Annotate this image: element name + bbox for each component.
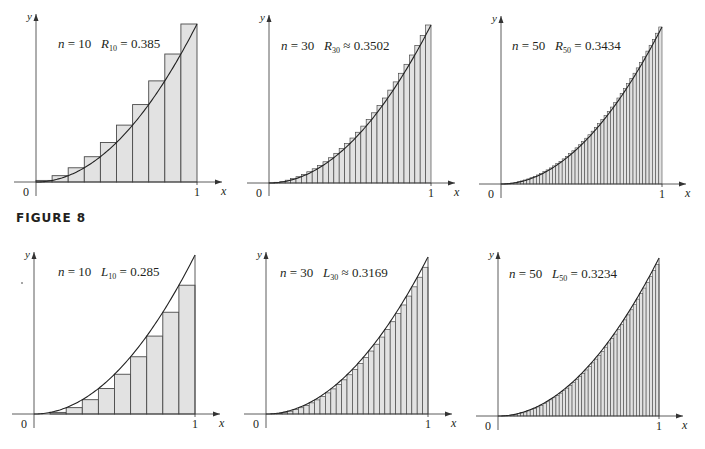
y-axis-arrow-icon	[32, 252, 37, 259]
rectangle	[533, 408, 536, 416]
x-tick-label-1: 1	[192, 417, 198, 431]
x-axis-label: x	[681, 418, 688, 432]
rectangle	[361, 126, 366, 183]
x-tick-label-1: 1	[656, 419, 662, 433]
rectangle	[569, 385, 572, 416]
rectangle	[611, 339, 614, 416]
riemann-sum-plots: yx01n = 10 R10 = 0.385yx01n = 30 R30 ≈ 0…	[0, 0, 705, 449]
rectangles	[501, 264, 659, 416]
rectangle	[601, 120, 604, 184]
rectangle	[546, 402, 549, 416]
figure-stage: yx01n = 10 R10 = 0.385yx01n = 30 R30 ≈ 0…	[0, 0, 705, 449]
rectangle	[656, 264, 659, 416]
rectangle	[98, 389, 114, 414]
rectangle	[537, 407, 540, 416]
rectangle	[578, 145, 581, 184]
rectangle	[630, 78, 633, 184]
rectangle	[549, 168, 552, 184]
rectangle	[84, 157, 100, 182]
rectangle	[420, 35, 425, 183]
rectangle	[591, 363, 594, 416]
y-axis-arrow-icon	[496, 252, 501, 259]
rectangle	[553, 398, 556, 416]
sum-annotation: n = 50 R50 = 0.3434	[512, 38, 621, 55]
rectangle	[352, 369, 357, 414]
x-tick-label-0: 0	[488, 187, 494, 201]
y-axis-label: y	[488, 248, 494, 260]
y-axis-arrow-icon	[264, 252, 269, 259]
rectangle	[350, 138, 355, 183]
rectangle	[588, 135, 591, 184]
rectangle	[339, 149, 344, 183]
rectangle	[336, 385, 341, 414]
rectangle	[320, 397, 325, 414]
rectangle	[331, 389, 336, 414]
y-axis-label: y	[24, 248, 30, 260]
rectangle	[614, 334, 617, 416]
panel-right-n30: yx01n = 30 R30 ≈ 0.3502	[247, 11, 460, 200]
rectangle	[133, 105, 149, 182]
rectangle	[527, 411, 530, 416]
rectangles	[50, 285, 195, 414]
rectangle	[355, 132, 360, 183]
x-tick-label-1: 1	[194, 185, 200, 199]
x-tick-label-0: 0	[256, 186, 262, 200]
rectangle	[620, 325, 623, 416]
y-axis-label: y	[491, 12, 497, 24]
x-tick-label-1: 1	[428, 186, 434, 200]
rectangle	[652, 39, 655, 184]
rectangle	[566, 388, 569, 416]
rectangle	[588, 366, 591, 416]
rectangle	[325, 393, 330, 414]
rectangle	[553, 166, 556, 184]
sum-annotation: n = 30 R30 ≈ 0.3502	[281, 38, 389, 55]
rectangle	[165, 54, 181, 182]
y-axis-arrow-icon	[267, 15, 272, 22]
rectangle	[382, 98, 387, 183]
rectangle	[363, 357, 368, 414]
rectangle	[181, 24, 197, 182]
rectangle	[147, 336, 163, 414]
figure-caption: FIGURE 8	[16, 211, 86, 225]
rectangle	[372, 113, 377, 183]
rectangle	[607, 111, 610, 184]
rectangle	[379, 337, 384, 414]
rectangle	[417, 277, 422, 414]
x-tick-label-1: 1	[659, 187, 665, 201]
x-tick-label-0: 0	[21, 417, 27, 431]
rectangle	[115, 374, 131, 414]
rectangle	[604, 347, 607, 416]
rectangle	[82, 400, 98, 414]
rectangle	[390, 322, 395, 414]
rectangle	[595, 359, 598, 416]
x-tick-label-1: 1	[425, 417, 431, 431]
rectangle	[649, 276, 652, 416]
rectangle	[656, 33, 659, 184]
rectangle	[565, 156, 568, 184]
rectangle	[66, 408, 82, 414]
y-axis-label: y	[256, 248, 262, 260]
sum-annotation: n = 30 L30 ≈ 0.3169	[280, 265, 388, 282]
x-axis-label: x	[218, 416, 225, 430]
rectangle	[369, 351, 374, 414]
rectangle	[388, 90, 393, 183]
rectangle	[366, 120, 371, 183]
rectangle	[426, 25, 431, 183]
rectangle	[401, 305, 406, 414]
rectangle	[404, 64, 409, 183]
rectangle	[617, 98, 620, 184]
rectangle	[396, 314, 401, 414]
rectangle	[640, 294, 643, 416]
x-axis-label: x	[220, 184, 227, 198]
sum-annotation: n = 10 L10 = 0.285	[58, 264, 159, 281]
rectangle	[559, 393, 562, 416]
rectangle	[624, 320, 627, 416]
rectangle	[393, 82, 398, 183]
rectangle	[163, 312, 179, 414]
rectangle	[649, 45, 652, 184]
rectangle	[543, 404, 546, 416]
rectangle	[521, 413, 524, 416]
rectangles	[271, 267, 428, 414]
rectangle	[149, 81, 165, 182]
rectangle	[530, 410, 533, 416]
